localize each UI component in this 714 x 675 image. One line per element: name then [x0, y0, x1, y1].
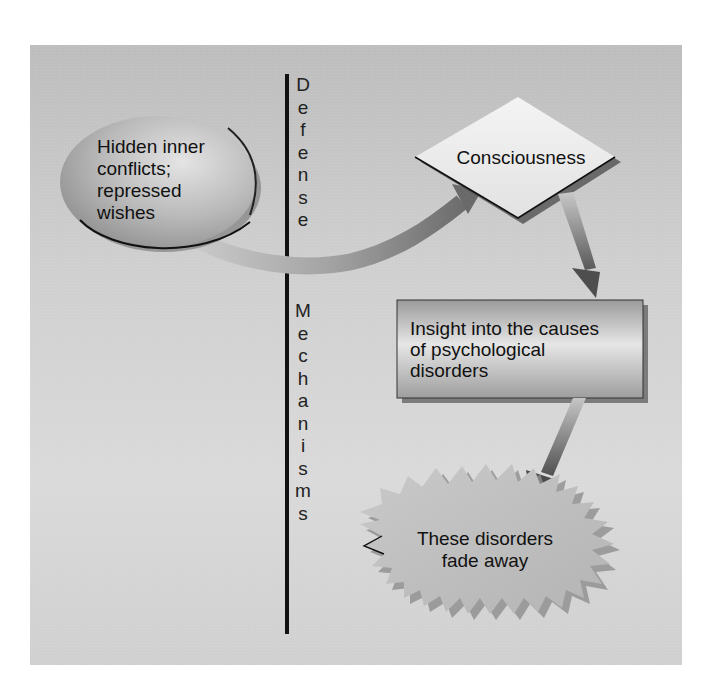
letter: e [294, 323, 312, 346]
letter: e [294, 97, 312, 120]
letter: D [294, 74, 312, 97]
node-fade-away-label: These disorders fade away [400, 528, 570, 572]
label-line: disorders [410, 360, 645, 381]
label-line: conflicts; [97, 158, 257, 180]
letter: a [294, 390, 312, 413]
label-line: of psychological [410, 339, 645, 360]
letter: h [294, 368, 312, 391]
letter: e [294, 142, 312, 165]
divider-label-defense: D e f e n s e [294, 74, 312, 232]
node-consciousness-label: Consciousness [441, 147, 601, 169]
letter: s [294, 187, 312, 210]
defense-mechanisms-divider [285, 74, 289, 634]
letter: e [294, 209, 312, 232]
letter: f [294, 119, 312, 142]
node-hidden-conflicts-label: Hidden inner conflicts; repressed wishes [97, 136, 257, 224]
letter: n [294, 164, 312, 187]
letter: i [294, 435, 312, 458]
letter: m [294, 480, 312, 503]
label-line: fade away [400, 550, 570, 572]
letter: s [294, 458, 312, 481]
label-line: wishes [97, 202, 257, 224]
label-line: repressed [97, 180, 257, 202]
letter: s [294, 503, 312, 526]
letter: M [294, 300, 312, 323]
label-line: These disorders [400, 528, 570, 550]
divider-label-mechanisms: M e c h a n i s m s [294, 300, 312, 525]
letter: n [294, 413, 312, 436]
label-line: Insight into the causes [410, 318, 645, 339]
arrow-consciousness-to-insight [558, 192, 600, 298]
label-line: Hidden inner [97, 136, 257, 158]
letter: c [294, 345, 312, 368]
label-line: Consciousness [441, 147, 601, 169]
node-insight-label: Insight into the causes of psychological… [410, 318, 645, 381]
